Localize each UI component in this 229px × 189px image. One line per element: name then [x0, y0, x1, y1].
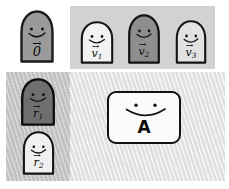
blob-shape-r2 — [20, 130, 57, 176]
blob-shape-v1 — [78, 20, 116, 65]
eye-left-icon — [138, 30, 141, 33]
eye-right-icon — [153, 103, 156, 107]
blob-shape-r1 — [18, 77, 58, 127]
blob-zero-vector[interactable]: → 0 — [17, 9, 57, 64]
eye-left-icon — [91, 35, 94, 38]
eye-right-icon — [101, 35, 104, 38]
figure-canvas: → 0 → v1 — [0, 0, 229, 189]
zero-vector-panel: → 0 — [4, 4, 70, 70]
eye-right-icon — [42, 93, 45, 96]
residuals-panel: → r1 → r2 — [6, 72, 70, 181]
agent-card[interactable]: A — [107, 91, 181, 144]
blob-v3[interactable]: → v3 — [173, 19, 209, 65]
eye-left-icon — [32, 93, 35, 96]
agent-label: A — [109, 119, 179, 136]
blob-r1[interactable]: → r1 — [18, 77, 58, 127]
blob-v1[interactable]: → v1 — [78, 20, 116, 65]
blob-shape-zero — [17, 9, 57, 64]
eye-left-icon — [33, 145, 36, 148]
eye-right-icon — [148, 30, 151, 33]
smile-icon — [127, 109, 166, 115]
agent-panel: A — [70, 72, 225, 181]
blob-shape-v2 — [125, 13, 163, 65]
eye-right-icon — [42, 145, 45, 148]
blob-shape-v3 — [173, 19, 209, 65]
eye-right-icon — [41, 27, 44, 30]
blob-v2[interactable]: → v2 — [125, 13, 163, 65]
eye-left-icon — [185, 35, 188, 38]
blob-r2[interactable]: → r2 — [20, 130, 57, 176]
eye-left-icon — [134, 103, 137, 107]
vectors-panel: → v1 → v2 — [70, 6, 215, 69]
eye-right-icon — [195, 35, 198, 38]
eye-left-icon — [30, 27, 33, 30]
